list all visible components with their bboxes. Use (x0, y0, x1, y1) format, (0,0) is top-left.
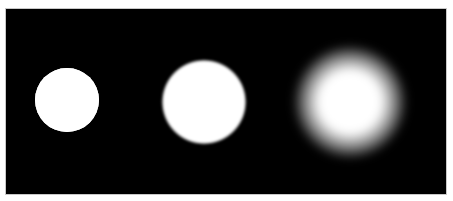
image-canvas (0, 0, 453, 201)
slightly-blurred-disc (161, 59, 247, 145)
heavily-blurred-disc (292, 44, 408, 160)
sharp-disc (35, 68, 99, 132)
black-panel (5, 8, 447, 195)
